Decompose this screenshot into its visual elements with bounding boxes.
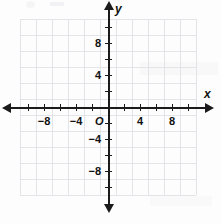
scan-artifact [50,2,64,6]
x-axis-left-arrow-icon [2,103,11,113]
y-tick-label: 4 [95,70,101,81]
scan-artifact [26,1,35,8]
coordinate-plane-figure: −8−44884−4−8 O x y [0,0,221,224]
y-axis-down-arrow-icon [104,204,114,213]
plot-area: −8−44884−4−8 O x y [20,19,196,195]
x-tick-label: −8 [38,116,51,127]
scan-artifact [150,196,212,206]
y-tick-label: 8 [95,38,101,49]
x-tick-label: −4 [70,116,83,127]
x-tick-label: 4 [137,116,143,127]
y-axis-up-arrow-icon [104,1,114,10]
y-axis-label: y [115,3,122,15]
y-tick-label: −8 [88,166,101,177]
x-tick-label: 8 [169,116,175,127]
origin-label: O [95,116,104,127]
y-axis-line [108,9,110,205]
x-axis-label: x [204,88,211,100]
x-axis-right-arrow-icon [205,103,214,113]
y-tick-label: −4 [88,134,101,145]
